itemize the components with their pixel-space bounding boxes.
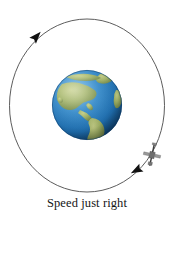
- arrowhead-top-left-glyph: [29, 29, 44, 44]
- satellite-antenna-dish: [152, 143, 156, 146]
- satellite-solar-panel-right: [155, 154, 161, 158]
- satellite-lower-module: [148, 162, 153, 166]
- orbit-direction-arrow-bottom-right: [129, 164, 144, 177]
- orbit-diagram-canvas: [0, 0, 174, 257]
- figure-caption: Speed just right: [0, 196, 174, 211]
- arrowhead-bottom-right-glyph: [129, 164, 144, 177]
- earth-globe: [52, 70, 122, 147]
- orbit-diagram-figure: Speed just right: [0, 0, 174, 257]
- satellite-solar-panel-left: [143, 152, 149, 156]
- orbit-direction-arrow-top-left: [29, 29, 44, 44]
- satellite-body: [149, 151, 155, 158]
